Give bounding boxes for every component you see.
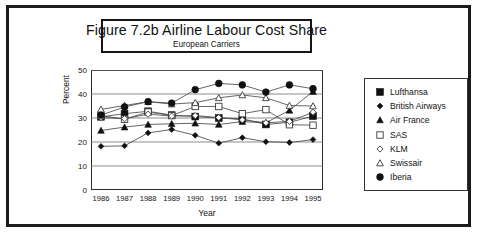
title-box: Figure 7.2b Airline Labour Cost Share Eu… (101, 19, 312, 53)
open-diamond-marker (377, 146, 383, 152)
legend-item-lufthansa[interactable]: Lufthansa (372, 85, 467, 99)
filled-circle-marker (310, 85, 317, 92)
legend-item-label: British Airways (390, 101, 446, 111)
filled-circle-marker (98, 112, 105, 119)
filled-diamond-marker (145, 130, 151, 136)
page-subtitle: European Carriers (173, 40, 240, 49)
legend-item-label: Lufthansa (390, 87, 428, 97)
y-tick-label: 50 (78, 66, 91, 75)
filled-circle-marker (168, 100, 175, 107)
open-triangle-icon (372, 157, 388, 169)
filled-diamond-marker (169, 127, 175, 133)
x-axis-title: Year (91, 208, 323, 218)
open-square-marker (377, 131, 383, 137)
legend-item-iberia[interactable]: Iberia (372, 170, 467, 184)
legend-item-label: KLM (390, 144, 408, 154)
filled-diamond-marker (263, 139, 269, 145)
series-layer (91, 70, 323, 190)
x-tick-label: 1995 (305, 194, 322, 203)
open-diamond-icon (372, 143, 388, 155)
x-tick-label: 1993 (257, 194, 274, 203)
y-tick-label: 10 (78, 162, 91, 171)
x-tick-label: 1989 (163, 194, 180, 203)
series-line (101, 130, 313, 147)
x-axis-tick-labels: 1986198719881989199019911992199319941995 (91, 194, 323, 206)
chart-container: Percent 01020304050 19861987198819891990… (65, 70, 327, 196)
legend-item-klm[interactable]: KLM (372, 142, 467, 156)
page-title: Figure 7.2b Airline Labour Cost Share (86, 23, 327, 38)
filled-diamond-marker (287, 140, 293, 146)
x-tick-label: 1986 (93, 194, 110, 203)
filled-circle-marker (121, 104, 128, 111)
legend-item-label: Iberia (390, 172, 412, 182)
y-axis-title: Percent (61, 75, 71, 104)
filled-square-marker (377, 89, 384, 96)
x-tick-label: 1988 (140, 194, 157, 203)
y-tick-label: 30 (78, 114, 91, 123)
open-square-marker (216, 103, 222, 109)
x-tick-label: 1992 (234, 194, 251, 203)
chart-legend: LufthansaBritish AirwaysAir FranceSASKLM… (364, 78, 468, 191)
series-line (101, 106, 313, 125)
series-line (101, 92, 313, 131)
x-tick-label: 1991 (210, 194, 227, 203)
filled-circle-icon (372, 171, 388, 183)
x-tick-label: 1987 (116, 194, 133, 203)
y-tick-label: 20 (78, 138, 91, 147)
filled-diamond-icon (372, 100, 388, 112)
legend-item-air-france[interactable]: Air France (372, 113, 467, 127)
filled-circle-marker (262, 89, 269, 96)
open-triangle-marker (377, 160, 384, 166)
legend-item-british-airways[interactable]: British Airways (372, 99, 467, 113)
filled-diamond-marker (239, 135, 245, 141)
filled-diamond-marker (98, 143, 104, 149)
filled-diamond-marker (377, 103, 383, 109)
filled-triangle-marker (377, 117, 384, 123)
legend-item-label: Swissair (390, 158, 422, 168)
y-tick-label: 0 (83, 186, 91, 195)
y-tick-label: 40 (78, 90, 91, 99)
open-square-marker (239, 110, 245, 116)
legend-item-label: SAS (390, 130, 407, 140)
x-tick-label: 1990 (187, 194, 204, 203)
legend-item-swissair[interactable]: Swissair (372, 156, 467, 170)
filled-circle-marker (145, 98, 152, 105)
filled-square-icon (372, 86, 388, 98)
x-tick-label: 1994 (281, 194, 298, 203)
filled-circle-marker (286, 81, 293, 88)
series-line (101, 95, 313, 109)
figure-outer-frame: Figure 7.2b Airline Labour Cost Share Eu… (6, 5, 471, 227)
filled-circle-marker (239, 81, 246, 88)
filled-diamond-marker (122, 143, 128, 149)
filled-circle-marker (377, 174, 384, 181)
filled-circle-marker (192, 86, 199, 93)
open-triangle-marker (239, 92, 246, 98)
open-square-marker (310, 122, 316, 128)
series-line (101, 83, 313, 115)
filled-circle-marker (215, 80, 222, 87)
open-square-marker (263, 106, 269, 112)
legend-item-sas[interactable]: SAS (372, 128, 467, 142)
filled-diamond-marker (192, 132, 198, 138)
filled-diamond-marker (216, 140, 222, 146)
legend-item-label: Air France (390, 115, 430, 125)
filled-triangle-icon (372, 114, 388, 126)
open-square-icon (372, 129, 388, 141)
